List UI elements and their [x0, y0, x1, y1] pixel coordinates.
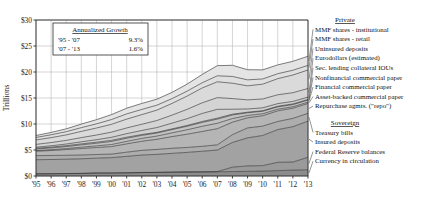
x-tick-label: '12 — [289, 180, 298, 189]
y-tick-label: $25 — [21, 42, 32, 51]
legend-group-heading: Private — [335, 16, 355, 24]
x-tick-label: '09 — [243, 180, 252, 189]
legend-leader-line — [309, 152, 313, 164]
y-tick-label: $20 — [21, 68, 32, 77]
x-tick-label: '10 — [258, 180, 267, 189]
annotation-row-0-period: '95 - '07 — [58, 36, 81, 43]
x-tick-label: '99 — [92, 180, 101, 189]
x-tick-label: '04 — [168, 180, 177, 189]
legend-leader-line — [309, 117, 313, 132]
legend-item-label[interactable]: Eurodollars (estimated) — [315, 54, 380, 62]
annotation-row-0-value: 9.3% — [129, 36, 144, 43]
x-tick-label: '05 — [183, 180, 192, 189]
legend-item-label[interactable]: Nonfinancial commercial paper — [315, 74, 403, 81]
legend-leader-line — [309, 106, 313, 108]
y-axis-title-text: Trillions — [2, 85, 11, 112]
legend-item-label[interactable]: Federal Reserve balances — [315, 148, 385, 155]
x-tick-label: '96 — [47, 180, 56, 189]
x-tick-label: '95 — [32, 180, 41, 189]
x-tick-label: '13 — [304, 180, 313, 189]
legend-item-label[interactable]: MMF shares - institutional — [315, 26, 389, 33]
x-tick-label: '11 — [274, 180, 283, 189]
legend-item-label[interactable]: Currency in circulation — [315, 157, 379, 164]
annotation-box: Annualized Growth '95 - '07 9.3% '07 - '… — [53, 23, 148, 55]
legend-leader-lines — [309, 29, 313, 172]
x-tick-label: '97 — [62, 180, 71, 189]
y-tick-label: $5 — [25, 146, 33, 155]
y-tick-label: $10 — [21, 120, 32, 129]
legend-item-label[interactable]: Sec. lending collateral IOUs — [315, 64, 393, 71]
legend-leader-line — [309, 139, 313, 142]
legend-item-label[interactable]: Financial commercial paper — [315, 83, 393, 90]
x-axis-tick-labels: '95'96'97'98'99'00'01'02'03'04'05'06'07'… — [32, 176, 313, 189]
legend-item-label[interactable]: Uninsured deposits — [315, 45, 368, 52]
x-tick-label: '01 — [122, 180, 131, 189]
y-tick-label: $15 — [21, 94, 32, 103]
annotation-title: Annualized Growth — [72, 26, 128, 34]
x-tick-label: '06 — [198, 180, 207, 189]
legend-leader-line — [309, 161, 313, 173]
y-axis-title: Trillions — [2, 85, 11, 112]
legend-group-heading: Sovereign — [331, 119, 360, 127]
chart-svg: $0$5$10$15$20$25$30 '95'96'97'98'99'00'0… — [0, 0, 425, 208]
legend-item-label[interactable]: MMF shares - retail — [315, 35, 370, 42]
x-tick-label: '00 — [107, 180, 116, 189]
legend-item-label[interactable]: Repurchase agmts. ("repo") — [315, 102, 391, 110]
y-axis-tick-labels: $0$5$10$15$20$25$30 — [21, 16, 36, 181]
annotation-row-1-period: '07 - '13 — [58, 45, 81, 52]
x-tick-label: '07 — [213, 180, 222, 189]
legend-item-label[interactable]: Insured deposits — [315, 138, 360, 145]
x-tick-label: '03 — [153, 180, 162, 189]
legend: PrivateMMF shares - institutionalMMF sha… — [315, 16, 404, 164]
x-tick-label: '98 — [77, 180, 86, 189]
y-tick-label: $30 — [21, 16, 32, 25]
legend-item-label[interactable]: Asset-backed commercial paper — [315, 93, 404, 100]
legend-item-label[interactable]: Treasury bills — [315, 129, 353, 136]
x-tick-label: '02 — [137, 180, 146, 189]
stacked-area-chart: $0$5$10$15$20$25$30 '95'96'97'98'99'00'0… — [0, 0, 425, 208]
annotation-row-1-value: 1.6% — [129, 45, 144, 52]
x-tick-label: '08 — [228, 180, 237, 189]
